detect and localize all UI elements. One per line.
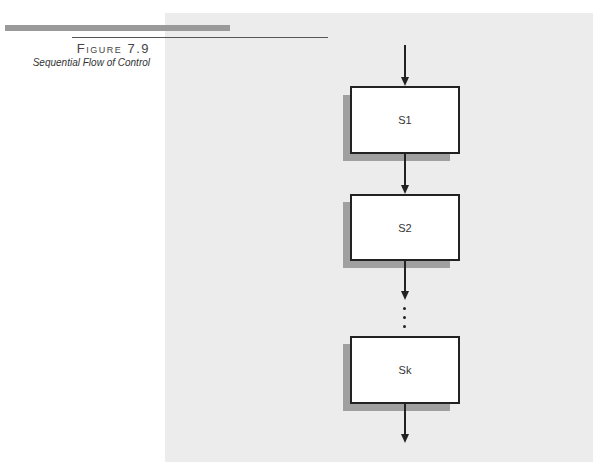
s1-s2-arrowhead-icon: [401, 185, 409, 194]
entry-arrowhead-icon: [401, 77, 409, 86]
node-s1: S1: [350, 86, 460, 154]
node-s1-label: S1: [398, 114, 411, 126]
header-bar: [5, 25, 230, 31]
ellipsis-dot: [403, 325, 406, 328]
entry-arrow-line: [404, 45, 406, 78]
node-sk-label: Sk: [399, 364, 412, 376]
node-s2: S2: [350, 194, 460, 261]
header-rule: [72, 37, 328, 38]
figure-number: Figure 7.9: [33, 41, 150, 56]
ellipsis-dot: [403, 307, 406, 310]
exit-arrow-line: [404, 404, 406, 435]
figure-caption: Sequential Flow of Control: [33, 57, 150, 68]
s2-ellipsis-arrowhead-icon: [401, 291, 409, 300]
figure-label: Figure 7.9 Sequential Flow of Control: [33, 41, 150, 68]
exit-arrowhead-icon: [401, 434, 409, 443]
ellipsis-dot: [403, 316, 406, 319]
s1-s2-arrow-line: [404, 154, 406, 185]
node-s2-label: S2: [398, 222, 411, 234]
node-sk: Sk: [350, 336, 460, 404]
s2-ellipsis-arrow-line: [404, 261, 406, 292]
